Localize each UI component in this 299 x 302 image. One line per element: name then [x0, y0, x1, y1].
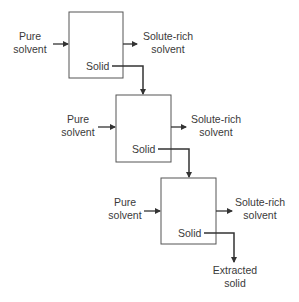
stage-2-inlet-label: Puresolvent — [61, 113, 94, 138]
stage-2-solid-flow-arrow — [158, 149, 189, 177]
stage-3-outlet-label: Solute-richsolvent — [235, 196, 285, 221]
stage-2-solid-label: Solid — [132, 143, 156, 155]
stage-1-solid-flow-arrow — [112, 66, 143, 94]
stage-3-solid-flow-arrow — [204, 233, 234, 262]
stage-3-inlet-label: Puresolvent — [108, 196, 141, 221]
stage-3-solid-label: Solid — [178, 227, 202, 239]
stage-1-solid-label: Solid — [86, 60, 110, 72]
stage-2-outlet-label: Solute-richsolvent — [191, 113, 241, 138]
stage-2: Puresolvent Solute-richsolvent Solid — [61, 95, 241, 177]
stage-1-inlet-label: Puresolvent — [13, 30, 46, 55]
extracted-solid-label: Extractedsolid — [213, 264, 258, 289]
stage-1: Puresolvent Solute-richsolvent Solid — [13, 12, 193, 94]
stage-3: Puresolvent Solute-richsolvent Solid Ext… — [108, 178, 285, 289]
stage-1-outlet-label: Solute-richsolvent — [143, 30, 193, 55]
leaching-diagram: Puresolvent Solute-richsolvent Solid Pur… — [0, 0, 299, 302]
